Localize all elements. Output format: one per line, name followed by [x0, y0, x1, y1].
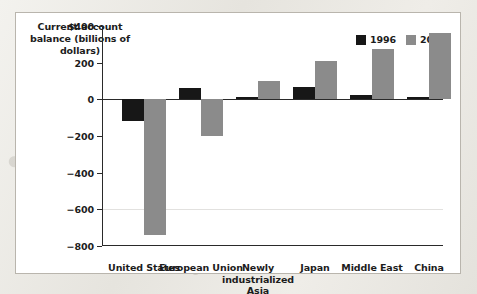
x-category-label-china: China [386, 262, 472, 274]
y-tick-label-minus800: −800 [67, 241, 94, 252]
y-axis-line [102, 26, 103, 246]
y-tick-mark-0 [97, 99, 102, 100]
y-tick-mark-minus800 [97, 246, 102, 247]
chart-figure-panel: Current account balance (billions of dol… [15, 12, 461, 274]
y-tick-mark-minus600 [97, 209, 102, 210]
y-tick-label-400: $400 [68, 21, 94, 32]
y-tick-mark-minus200 [97, 136, 102, 137]
y-tick-label-minus200: −200 [67, 131, 94, 142]
bar-1996-newly-industrialized-asia [236, 97, 258, 99]
y-tick-label-0: 0 [87, 94, 94, 105]
bar-1996-middle-east [350, 95, 372, 99]
y-tick-mark-200 [97, 63, 102, 64]
bar-1996-european-union [179, 88, 201, 99]
bar-1996-japan [293, 87, 315, 99]
y-tick-label-minus400: −400 [67, 168, 94, 179]
bar-2007-japan [315, 61, 337, 99]
y-tick-label-200: 200 [74, 58, 94, 69]
bar-2007-middle-east [372, 49, 394, 99]
x-axis-line [102, 245, 443, 246]
bar-2007-european-union [201, 99, 223, 136]
y-tick-mark-400 [97, 26, 102, 27]
bar-2007-china [429, 33, 451, 99]
bar-1996-china [407, 97, 429, 99]
bar-2007-united-states [144, 99, 166, 235]
y-tick-mark-minus400 [97, 173, 102, 174]
plot-area: $400 200 0 −200 −400 −600 −800 United St… [102, 26, 443, 246]
bar-2007-newly-industrialized-asia [258, 81, 280, 99]
y-tick-label-minus600: −600 [67, 204, 94, 215]
bar-1996-united-states [122, 99, 144, 121]
